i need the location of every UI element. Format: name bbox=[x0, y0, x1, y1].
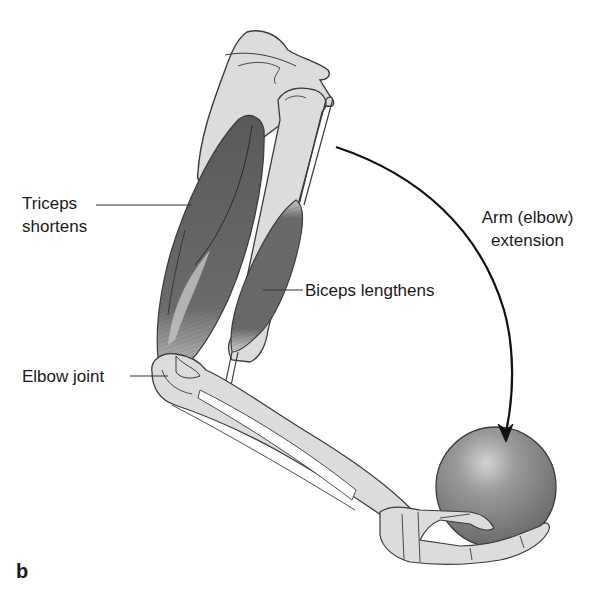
forearm-bones bbox=[152, 354, 410, 524]
triceps-label-line2: shortens bbox=[22, 216, 87, 237]
anatomy-illustration bbox=[0, 0, 603, 605]
panel-letter: b bbox=[16, 560, 28, 583]
triceps-label-line1: Triceps bbox=[22, 193, 77, 214]
motion-label-line2: extension bbox=[470, 230, 585, 251]
elbow-joint-label: Elbow joint bbox=[22, 366, 104, 387]
biceps-label: Biceps lengthens bbox=[305, 280, 434, 301]
arm-extension-diagram: Triceps shortens Biceps lengthens Elbow … bbox=[0, 0, 603, 605]
motion-label-line1: Arm (elbow) bbox=[470, 207, 585, 228]
